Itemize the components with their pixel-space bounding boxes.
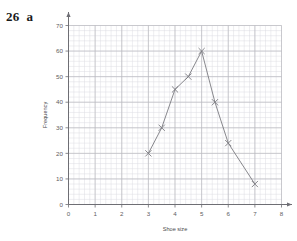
x-tick-label: 0 bbox=[67, 210, 71, 217]
y-tick-label: 10 bbox=[56, 175, 63, 182]
y-tick-label: 60 bbox=[56, 47, 63, 54]
x-tick-label: 1 bbox=[93, 210, 97, 217]
y-tick-label: 40 bbox=[56, 98, 63, 105]
x-axis-tick-labels: 012345678 bbox=[67, 210, 284, 217]
x-tick-label: 5 bbox=[200, 210, 204, 217]
y-tick-label: 50 bbox=[56, 73, 63, 80]
y-axis-tick-labels: 010203040506070 bbox=[56, 22, 63, 208]
worksheet-figure: 26a 012345678 010203040506070 Shoe sizeF… bbox=[0, 0, 297, 241]
x-tick-label: 3 bbox=[147, 210, 151, 217]
frequency-polygon-chart: 012345678 010203040506070 Shoe sizeFrequ… bbox=[0, 0, 297, 241]
chart-canvas: 012345678 010203040506070 Shoe sizeFrequ… bbox=[0, 0, 297, 241]
x-tick-label: 2 bbox=[120, 210, 124, 217]
y-tick-label: 20 bbox=[56, 150, 63, 157]
y-axis-title: Frequency bbox=[42, 102, 48, 129]
axis-tick-marks bbox=[66, 26, 282, 208]
axis-titles: Shoe sizeFrequency bbox=[42, 102, 187, 232]
x-tick-label: 6 bbox=[227, 210, 231, 217]
x-axis-title: Shoe size bbox=[163, 226, 188, 232]
x-tick-label: 7 bbox=[253, 210, 257, 217]
x-tick-label: 4 bbox=[173, 210, 177, 217]
y-tick-label: 30 bbox=[56, 124, 63, 131]
x-tick-label: 8 bbox=[280, 210, 284, 217]
y-tick-label: 0 bbox=[60, 201, 64, 208]
y-tick-label: 70 bbox=[56, 22, 63, 29]
